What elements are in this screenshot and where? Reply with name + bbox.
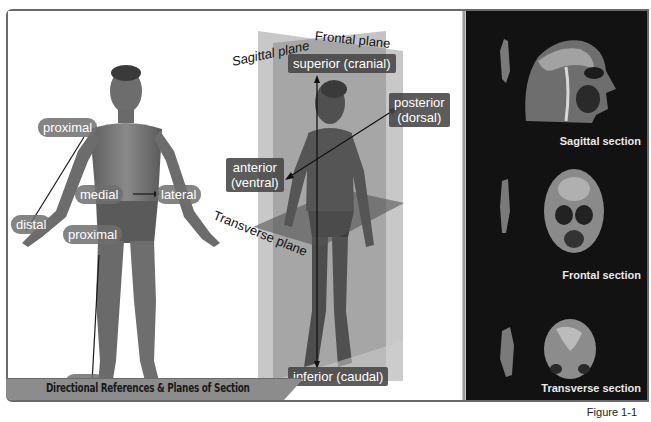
label-medial: medial <box>75 185 123 204</box>
planes-of-section <box>253 31 404 381</box>
label-anterior-line1: anterior <box>231 160 279 175</box>
label-proximal-leg: proximal <box>63 225 122 244</box>
label-posterior: posterior (dorsal) <box>389 93 450 127</box>
label-distal-arm: distal <box>11 215 51 234</box>
left-figure-body <box>22 65 220 385</box>
mri-sections-illustration <box>466 11 647 400</box>
label-transverse-section: Transverse section <box>541 382 641 394</box>
sections-panel: Sagittal section Frontal section Transve… <box>466 11 647 400</box>
label-posterior-line2: (dorsal) <box>394 110 445 125</box>
label-posterior-line1: posterior <box>394 95 445 110</box>
figure-title-bar: Directional References & Planes of Secti… <box>6 378 304 400</box>
frontal-section-image <box>500 169 604 253</box>
label-proximal-arm: proximal <box>38 118 97 137</box>
label-sagittal-section: Sagittal section <box>560 135 641 147</box>
directional-references-panel: proximal medial lateral distal proximal … <box>8 11 463 391</box>
sagittal-section-image <box>500 39 616 123</box>
label-anterior-line2: (ventral) <box>231 175 279 190</box>
figure-caption: Figure 1-1 <box>587 406 637 418</box>
transverse-section-image <box>500 319 596 379</box>
figure-title: Directional References & Planes of Secti… <box>46 381 250 395</box>
label-lateral: lateral <box>156 185 201 204</box>
label-frontal-section: Frontal section <box>562 269 641 281</box>
label-anterior: anterior (ventral) <box>226 158 284 192</box>
label-superior: superior (cranial) <box>288 54 396 73</box>
